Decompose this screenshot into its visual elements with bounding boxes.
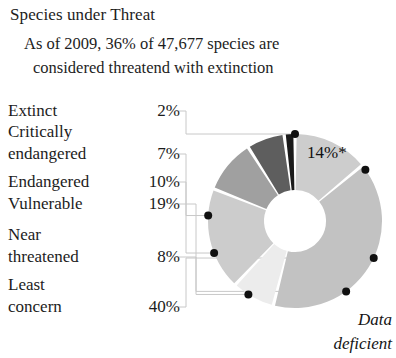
leader-line (176, 154, 208, 216)
legend-item-label: Least (8, 274, 45, 296)
legend-item-label: concern (8, 296, 62, 318)
legend-row: Extinct2% (8, 100, 180, 122)
callout-data-deficient-line-2: deficient (300, 332, 392, 356)
leader-line (176, 111, 295, 134)
legend-row: Critically (8, 121, 180, 143)
legend-row: threatened8% (8, 246, 180, 268)
slice-marker-dot (210, 249, 218, 257)
legend-item-value: 19% (124, 193, 180, 215)
legend-item-label: Extinct (8, 100, 57, 122)
slice-marker-dot (361, 166, 369, 174)
callout-data-deficient-line-1: Data (300, 308, 392, 332)
slice-marker-dot (370, 254, 378, 262)
legend-row: concern40% (8, 296, 180, 318)
legend-row: Endangered10% (8, 171, 180, 193)
legend-item-value: 2% (124, 100, 180, 122)
legend-item-label: Endangered (8, 171, 89, 193)
legend-item-label: Critically (8, 121, 72, 143)
legend-item-label: endangered (8, 143, 86, 165)
slice-marker-dot (244, 290, 252, 298)
slice-marker-dot (291, 130, 299, 138)
callout-data-deficient-percent: 14%* (307, 143, 347, 163)
callout-data-deficient-label: Data deficient (300, 308, 392, 356)
slice-marker-dot (342, 287, 350, 295)
legend-item-value: 10% (124, 171, 180, 193)
legend-row: Vulnerable19% (8, 193, 180, 215)
slice-marker-dot (204, 212, 212, 220)
legend-item-value: 40% (124, 296, 180, 318)
legend-item-label: Near (8, 224, 41, 246)
legend-item-value: 7% (124, 143, 180, 165)
legend-item-label: threatened (8, 246, 79, 268)
legend-item-label: Vulnerable (8, 193, 83, 215)
donut-slices-group (208, 134, 382, 308)
legend-row: endangered7% (8, 143, 180, 165)
legend-item-value: 8% (124, 246, 180, 268)
legend-row: Least (8, 274, 180, 296)
legend-row: Near (8, 224, 180, 246)
